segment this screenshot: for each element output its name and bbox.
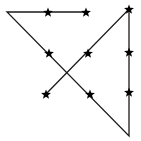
star-icon bbox=[85, 89, 95, 98]
star-icon bbox=[44, 48, 54, 57]
star-icon bbox=[43, 7, 53, 16]
star-icon bbox=[81, 7, 91, 16]
star-icon bbox=[83, 48, 93, 57]
path-star-diagram bbox=[0, 0, 141, 141]
connecting-path-line bbox=[7, 9, 129, 136]
